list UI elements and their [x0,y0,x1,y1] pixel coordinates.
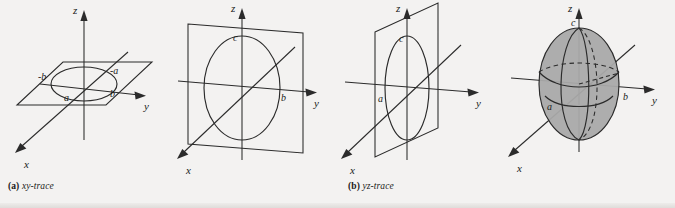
b-intercept-label: b [623,91,628,102]
z-axis-label: z [567,2,573,14]
page-bottom-edge [0,203,675,208]
panel-ellipsoid: z y x c a b (d) The ellipsoid [495,0,675,208]
yz-plane-outline [188,24,303,153]
neg-b-intercept-label: -b [38,71,46,82]
ellipsoid-traces-figure: z y x -b -a a b (a) xy-trace [0,0,675,208]
panel-yz-trace-drawing: z y x c b [170,0,335,190]
c-intercept-label: c [571,17,576,28]
caption-xy-trace-text: xy-trace [22,181,54,191]
x-axis-arrowhead [177,149,188,159]
x-axis-label: x [349,164,355,176]
x-axis-line [348,45,461,152]
z-axis-arrowhead [403,8,410,19]
y-axis-arrowhead [305,88,317,96]
y-axis-label: y [313,97,319,109]
x-axis-arrowhead [508,147,519,157]
x-axis-label: x [185,164,191,176]
z-axis-label: z [230,2,236,14]
neg-a-intercept-label: -a [110,65,118,76]
z-axis-arrowhead [80,10,87,21]
z-axis-label: z [72,4,78,16]
a-intercept-label: a [64,92,69,103]
z-axis-arrowhead [238,8,245,19]
c-intercept-label: c [399,33,404,44]
panel-xz-trace-drawing: z y x c a [335,0,495,190]
x-axis-label: x [23,158,29,170]
panel-xz-trace: z y x c a (c) xz-trace [335,0,495,208]
a-intercept-label: a [547,101,552,112]
x-axis-arrowhead [15,143,26,153]
y-axis-label: y [475,97,481,109]
y-axis-line [178,81,309,92]
x-axis-label: x [516,162,522,174]
b-intercept-label: b [281,92,286,103]
caption-xy-trace-index: (a) [8,181,19,191]
panel-xy-trace: z y x -b -a a b (a) xy-trace [0,0,170,208]
x-axis-arrowhead [341,149,352,159]
x-axis-line [184,47,295,152]
b-intercept-label: b [110,88,115,99]
panel-yz-trace: z y x c b (b) yz-trace [170,0,335,208]
caption-xy-trace: (a) xy-trace [8,181,54,191]
z-axis-label: z [395,2,401,14]
z-axis-arrowhead [575,8,582,19]
panel-ellipsoid-drawing: z y x c a b [495,0,675,190]
y-axis-arrowhead [467,88,479,96]
y-axis-label: y [143,100,149,112]
a-intercept-label: a [378,93,383,104]
y-axis-label: y [651,94,657,106]
panel-xy-trace-drawing: z y x -b -a a b [0,0,170,190]
y-axis-line [345,82,471,92]
y-axis-arrowhead [135,92,147,100]
y-axis-arrowhead [643,85,655,93]
c-intercept-label: c [233,32,238,43]
